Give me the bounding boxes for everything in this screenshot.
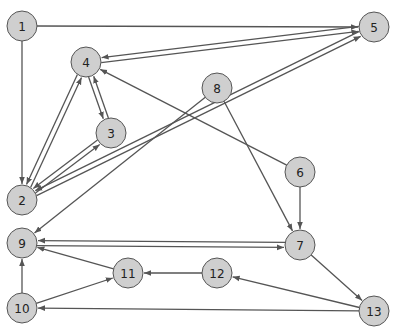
node-6: 6 <box>285 157 315 187</box>
edge-7-to-9 <box>38 241 285 243</box>
edge-4-to-5 <box>101 31 358 62</box>
edge-8-to-9 <box>35 97 206 233</box>
node-13: 13 <box>359 296 389 326</box>
node-layer: 12345678910111213 <box>7 11 389 326</box>
node-label: 5 <box>370 21 378 35</box>
node-label: 4 <box>82 56 90 70</box>
edge-9-to-7 <box>37 246 284 248</box>
node-4: 4 <box>71 47 101 77</box>
edge-8-to-7 <box>224 101 293 231</box>
node-label: 3 <box>107 127 115 141</box>
node-label: 10 <box>14 302 29 316</box>
node-11: 11 <box>113 258 143 288</box>
node-12: 12 <box>202 258 232 288</box>
node-2: 2 <box>7 185 37 215</box>
node-1: 1 <box>7 11 37 41</box>
directed-graph: 12345678910111213 <box>0 0 401 336</box>
edge-10-to-11 <box>36 278 113 303</box>
node-3: 3 <box>96 118 126 148</box>
edge-7-to-13 <box>311 255 362 300</box>
node-label: 7 <box>296 239 304 253</box>
edge-13-to-10 <box>38 308 359 311</box>
edge-11-to-9 <box>37 247 113 269</box>
node-label: 11 <box>120 267 135 281</box>
node-label: 1 <box>18 20 26 34</box>
node-label: 13 <box>366 305 381 319</box>
edge-5-to-4 <box>102 26 359 57</box>
node-9: 9 <box>7 228 37 258</box>
node-10: 10 <box>7 293 37 323</box>
node-label: 9 <box>18 237 26 251</box>
node-8: 8 <box>202 73 232 103</box>
node-label: 2 <box>18 194 26 208</box>
node-label: 12 <box>209 267 224 281</box>
node-7: 7 <box>285 230 315 260</box>
edge-1-to-5 <box>37 26 358 27</box>
node-label: 8 <box>213 82 221 96</box>
node-5: 5 <box>359 12 389 42</box>
node-label: 6 <box>296 166 304 180</box>
